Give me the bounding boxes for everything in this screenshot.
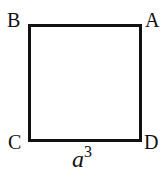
side-label-base: a [72, 146, 84, 172]
vertex-label-c: C [8, 132, 21, 152]
vertex-label-d: D [144, 132, 158, 152]
side-length-label: a3 [72, 147, 92, 171]
square-abcd [28, 24, 142, 142]
vertex-label-b: B [7, 10, 20, 30]
side-label-exponent: 3 [84, 143, 92, 160]
vertex-label-a: A [145, 10, 159, 30]
